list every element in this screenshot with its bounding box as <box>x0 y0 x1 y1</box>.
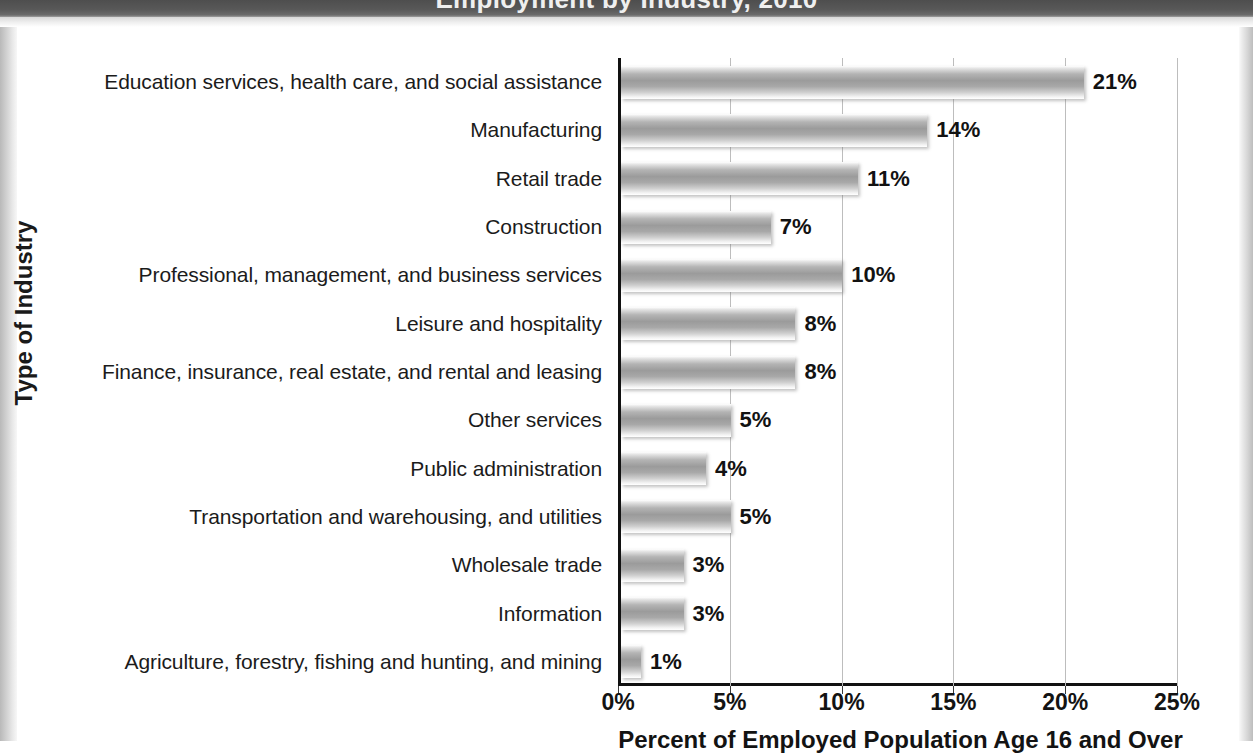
y-axis-category-label: Finance, insurance, real estate, and ren… <box>102 360 602 384</box>
plot-area: 21%14%11%7%10%8%8%5%4%5%3%3%1% <box>618 58 1177 686</box>
bar[interactable] <box>621 259 842 292</box>
bar-value-label: 3% <box>684 552 725 578</box>
bar-row[interactable]: 3% <box>621 591 1180 636</box>
y-axis-category-label: Retail trade <box>496 167 602 191</box>
bar-row[interactable]: 5% <box>621 494 1180 539</box>
bar-value-label: 8% <box>795 359 836 385</box>
y-axis-category-label: Other services <box>468 408 602 432</box>
bar[interactable] <box>621 211 771 244</box>
y-axis-category-label: Wholesale trade <box>452 553 602 577</box>
bar-row[interactable]: 10% <box>621 253 1180 298</box>
bar-row[interactable]: 21% <box>621 60 1180 105</box>
bar-value-label: 7% <box>771 214 812 240</box>
bar-value-label: 4% <box>706 456 747 482</box>
y-axis-category-label: Manufacturing <box>470 118 602 142</box>
y-axis-category-labels: Education services, health care, and soc… <box>60 58 610 686</box>
bar[interactable] <box>621 66 1084 99</box>
bar-value-label: 1% <box>641 649 682 675</box>
bar-value-label: 5% <box>731 407 772 433</box>
bar[interactable] <box>621 162 858 195</box>
x-axis-tick-label: 10% <box>819 689 865 716</box>
bar[interactable] <box>621 307 795 340</box>
bar[interactable] <box>621 549 684 582</box>
chart-title: Employment by Industry, 2010 <box>0 0 1253 15</box>
y-axis-category-label: Transportation and warehousing, and util… <box>189 505 602 529</box>
bar-row[interactable]: 5% <box>621 398 1180 443</box>
x-axis-tick-label: 0% <box>601 689 634 716</box>
bar-value-label: 3% <box>684 601 725 627</box>
y-axis-category-label: Public administration <box>410 457 602 481</box>
bar[interactable] <box>621 404 731 437</box>
bar[interactable] <box>621 500 731 533</box>
y-axis-category-label: Education services, health care, and soc… <box>104 70 602 94</box>
bar[interactable] <box>621 452 706 485</box>
bar-row[interactable]: 14% <box>621 108 1180 153</box>
y-axis-category-label: Agriculture, forestry, fishing and hunti… <box>125 650 602 674</box>
bar-value-label: 10% <box>842 262 895 288</box>
x-axis-tick-labels: 0%5%10%15%20%25% <box>618 689 1183 723</box>
bar-row[interactable]: 11% <box>621 156 1180 201</box>
bar-row[interactable]: 1% <box>621 639 1180 684</box>
x-axis-tick-label: 5% <box>713 689 746 716</box>
bar-value-label: 5% <box>731 504 772 530</box>
bar[interactable] <box>621 597 684 630</box>
bar-value-label: 8% <box>795 311 836 337</box>
y-axis-title: Type of Industry <box>10 203 38 423</box>
y-axis-category-label: Construction <box>485 215 602 239</box>
bar-value-label: 14% <box>927 117 980 143</box>
bar-row[interactable]: 7% <box>621 205 1180 250</box>
y-axis-category-label: Professional, management, and business s… <box>139 263 602 287</box>
bar-row[interactable]: 3% <box>621 543 1180 588</box>
bar-row[interactable]: 8% <box>621 301 1180 346</box>
x-axis-tick-label: 15% <box>930 689 976 716</box>
bar-row[interactable]: 4% <box>621 446 1180 491</box>
bar[interactable] <box>621 114 927 147</box>
bar[interactable] <box>621 356 795 389</box>
x-axis-title: Percent of Employed Population Age 16 an… <box>618 726 1183 754</box>
y-axis-category-label: Information <box>498 602 602 626</box>
x-axis-tick-label: 20% <box>1042 689 1088 716</box>
x-axis-tick-label: 25% <box>1154 689 1200 716</box>
page-header-band: Employment by Industry, 2010 <box>0 0 1253 17</box>
bar-row[interactable]: 8% <box>621 350 1180 395</box>
bar-value-label: 21% <box>1084 69 1137 95</box>
bar[interactable] <box>621 645 641 678</box>
y-axis-category-label: Leisure and hospitality <box>395 312 602 336</box>
page-header-shadow <box>0 17 1253 27</box>
bar-chart: Type of Industry Education services, hea… <box>0 27 1253 741</box>
bar-value-label: 11% <box>858 166 910 192</box>
